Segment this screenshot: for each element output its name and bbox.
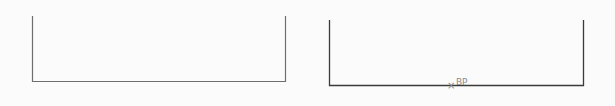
- base-point-label: BP: [456, 78, 467, 87]
- right-open-rectangle: [330, 20, 584, 86]
- diagram-canvas: [0, 0, 615, 106]
- left-open-rectangle: [33, 16, 286, 82]
- base-point-cross-icon: ×: [447, 81, 455, 91]
